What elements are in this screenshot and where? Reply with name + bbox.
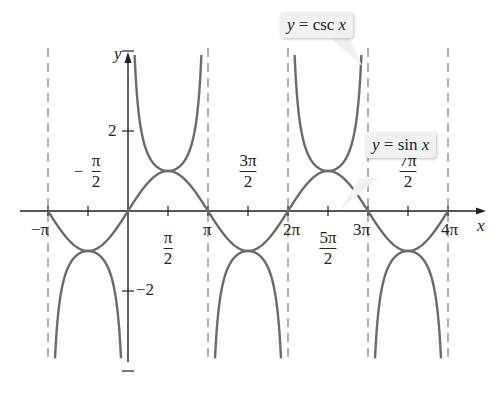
denominator: 2 (324, 250, 333, 268)
csc-branch (215, 251, 281, 358)
numerator: 3π (239, 152, 256, 170)
sin-callout-pointer (340, 178, 378, 210)
sin-legend-callout: y = sin x (365, 132, 436, 158)
x-axis-label: x (477, 217, 485, 234)
plot-area (0, 0, 502, 393)
callout-eq: = sin (380, 135, 422, 154)
csc-branch (55, 251, 121, 358)
callout-y: y (372, 135, 380, 154)
x-tick-label-pi-over-2: π 2 (164, 229, 173, 268)
neg-sign: − (74, 163, 84, 181)
x-tick-label-3pi-over-2: 3π 2 (239, 152, 256, 191)
y-axis-label: y (114, 45, 122, 62)
x-axis-arrow (476, 208, 486, 215)
csc-legend-callout: y = csc x (280, 12, 353, 38)
callout-eq: = csc (295, 15, 339, 34)
denominator: 2 (164, 250, 173, 268)
csc-branch (135, 55, 202, 171)
x-tick-label-4pi: 4π (441, 221, 458, 238)
y-tick-label-2: 2 (108, 122, 117, 139)
y-tick-label-neg2: −2 (136, 281, 154, 298)
x-tick-label-2pi: 2π (283, 221, 300, 238)
denominator: 2 (92, 173, 101, 191)
callout-x: x (339, 15, 347, 34)
x-tick-label-pi: π (203, 221, 212, 238)
x-tick-label-neg-pi: −π (31, 221, 49, 238)
x-tick-label-neg-pi-over-2: − π 2 (92, 152, 101, 191)
csc-callout-pointer (330, 38, 362, 66)
x-tick-label-5pi-over-2: 5π 2 (319, 229, 336, 268)
denominator: 2 (244, 173, 253, 191)
callout-y: y (287, 15, 295, 34)
csc-branch (295, 55, 362, 171)
axes (20, 51, 486, 371)
x-tick-label-3pi: 3π (353, 221, 370, 238)
denominator: 2 (404, 173, 413, 191)
numerator: 5π (319, 229, 336, 247)
callout-x: x (422, 135, 430, 154)
asymptotes (48, 48, 448, 362)
numerator: π (164, 229, 173, 247)
numerator: π (92, 152, 101, 170)
csc-branch (375, 251, 441, 358)
y-axis-arrow (125, 52, 132, 63)
